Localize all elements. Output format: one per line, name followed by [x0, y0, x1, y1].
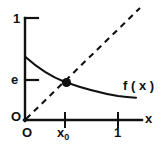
plot-svg: [0, 0, 161, 144]
curve-label-fx: f ( x ): [123, 79, 154, 92]
origin-label-x: O: [22, 126, 32, 139]
diagonal-identity-line: [26, 8, 140, 119]
figure-container: 1 e O O x0 1 x f ( x ): [0, 0, 161, 144]
x-tick-label-one: 1: [114, 126, 121, 139]
y-tick-label-e: e: [11, 73, 18, 86]
y-tick-label-one: 1: [13, 12, 20, 25]
x-axis-label: x: [145, 112, 152, 125]
origin-label-y: O: [11, 110, 21, 123]
fixed-point-marker: [62, 78, 71, 87]
curve-fx: [26, 57, 137, 98]
x-tick-label-x0: x0: [57, 126, 69, 142]
x-tick-label-x0-subscript: 0: [64, 132, 69, 142]
